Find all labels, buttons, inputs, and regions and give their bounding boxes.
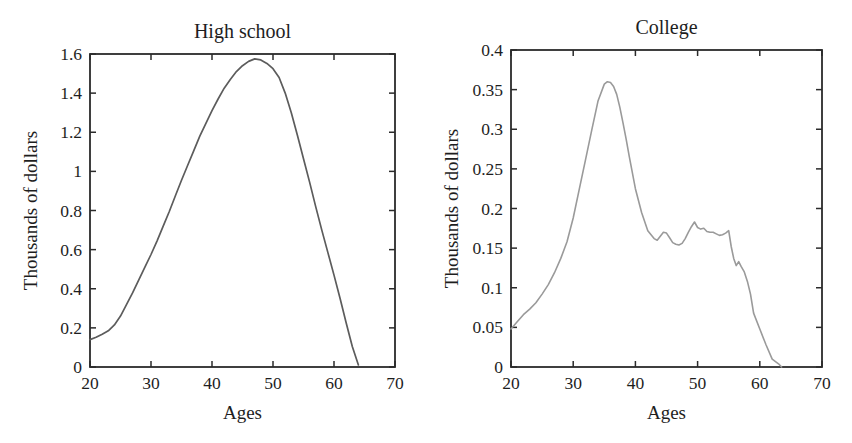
x-tick-label: 60	[751, 373, 769, 393]
college-chart: 20304050607000.050.10.150.20.250.30.350.…	[426, 0, 852, 443]
data-curve	[511, 82, 782, 367]
x-tick-label: 20	[502, 373, 520, 393]
y-tick-label: 0.2	[481, 199, 503, 219]
x-tick-label: 30	[564, 373, 582, 393]
y-tick-label: 0.4	[481, 40, 503, 60]
y-tick-label: 0.35	[472, 80, 503, 100]
x-axis-label: Ages	[223, 402, 262, 423]
y-tick-label: 0.3	[481, 119, 503, 139]
x-tick-label: 20	[81, 373, 99, 393]
y-tick-label: 1.4	[60, 83, 82, 103]
y-tick-label: 1.2	[60, 122, 82, 142]
chart-title: High school	[194, 20, 292, 43]
y-axis-label: Thousands of dollars	[20, 131, 41, 290]
y-tick-label: 0.15	[472, 238, 503, 258]
y-tick-label: 1	[73, 161, 82, 181]
x-tick-label: 40	[203, 373, 221, 393]
figure: 20304050607000.20.40.60.811.21.41.6High …	[0, 0, 852, 443]
chart-title: College	[635, 16, 697, 39]
x-tick-label: 70	[386, 373, 404, 393]
high-school-plot: 20304050607000.20.40.60.811.21.41.6High …	[0, 0, 426, 443]
data-curve	[90, 59, 358, 365]
y-tick-label: 0.4	[60, 279, 82, 299]
x-axis-label: Ages	[647, 402, 686, 423]
x-tick-label: 40	[627, 373, 645, 393]
college-plot: 20304050607000.050.10.150.20.250.30.350.…	[426, 0, 852, 443]
plot-box	[511, 50, 822, 367]
y-tick-label: 0.2	[60, 318, 82, 338]
x-tick-label: 70	[813, 373, 831, 393]
y-tick-label: 0.1	[481, 278, 503, 298]
x-tick-label: 50	[689, 373, 707, 393]
y-tick-label: 0.05	[472, 317, 503, 337]
x-tick-label: 50	[264, 373, 282, 393]
y-tick-label: 0.8	[60, 201, 82, 221]
high-school-chart: 20304050607000.20.40.60.811.21.41.6High …	[0, 0, 426, 443]
y-tick-label: 0	[494, 357, 503, 377]
y-tick-label: 0.6	[60, 240, 82, 260]
plot-box	[90, 54, 395, 367]
x-tick-label: 60	[325, 373, 343, 393]
y-axis-label: Thousands of dollars	[441, 129, 462, 288]
y-tick-label: 1.6	[60, 44, 82, 64]
x-tick-label: 30	[142, 373, 160, 393]
y-tick-label: 0.25	[472, 159, 503, 179]
y-tick-label: 0	[73, 357, 82, 377]
